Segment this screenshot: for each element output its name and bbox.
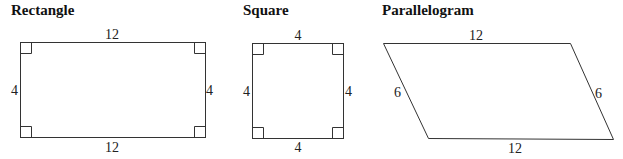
parallelogram-top-label: 12: [469, 28, 483, 43]
square-bottom-label: 4: [295, 140, 302, 155]
shapes-diagram: 12 12 4 4 4 4 4 4 12 12 6 6: [0, 0, 623, 159]
rectangle-bottom-label: 12: [105, 140, 119, 155]
rectangle-top-label: 12: [105, 27, 119, 42]
parallelogram-right-label: 6: [595, 86, 602, 101]
square-shape: [253, 44, 344, 139]
square-top-label: 4: [295, 28, 302, 43]
square-right-label: 4: [345, 84, 352, 99]
parallelogram-shape: [384, 44, 614, 140]
parallelogram-bottom-label: 12: [508, 141, 522, 156]
rectangle-left-label: 4: [11, 83, 18, 98]
rectangle-shape: [21, 43, 206, 138]
parallelogram-left-label: 6: [394, 85, 401, 100]
rectangle-right-label: 4: [206, 83, 213, 98]
square-left-label: 4: [243, 84, 250, 99]
